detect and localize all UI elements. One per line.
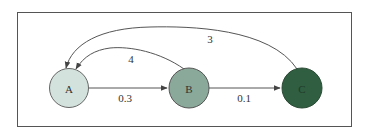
node-b: B <box>169 68 209 108</box>
node-label-b: B <box>185 83 192 95</box>
graph-canvas: 3 4 0.3 0.1 A B C <box>0 0 370 133</box>
node-c: C <box>282 68 322 108</box>
edge-b-to-a: 4 <box>76 48 184 69</box>
node-a: A <box>50 69 89 108</box>
edge-label-b-to-c: 0.1 <box>237 92 251 104</box>
edge-b-to-c: 0.1 <box>209 88 280 104</box>
edge-c-to-a: 3 <box>66 27 297 69</box>
edge-a-to-b: 0.3 <box>89 88 167 104</box>
edge-label-a-to-b: 0.3 <box>118 92 132 104</box>
edge-label-b-to-a: 4 <box>128 53 134 65</box>
node-label-c: C <box>298 83 305 95</box>
node-label-a: A <box>65 83 73 95</box>
edge-label-c-to-a: 3 <box>207 33 213 45</box>
